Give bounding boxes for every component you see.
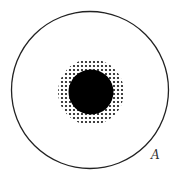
point-label-a: A <box>150 148 160 162</box>
black-core-disk <box>69 70 114 115</box>
diagram-canvas: A <box>0 0 180 180</box>
